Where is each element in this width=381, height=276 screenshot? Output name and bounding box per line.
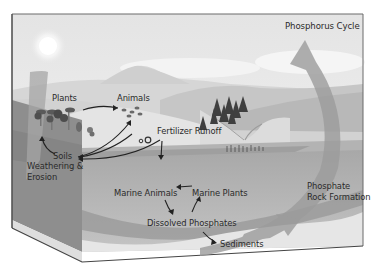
- label-rock-formation-line2: Rock Formation: [307, 192, 371, 202]
- label-weathering-line1: Weathering &: [27, 161, 83, 171]
- sun-icon: [30, 28, 66, 64]
- label-sediments: Sediments: [220, 239, 263, 249]
- label-soils: Soils: [53, 151, 72, 161]
- label-weathering-line2: Erosion: [27, 172, 57, 182]
- label-marine-plants: Marine Plants: [192, 188, 247, 198]
- label-animals: Animals: [117, 93, 150, 103]
- diagram-title: Phosphorus Cycle: [285, 21, 360, 31]
- diagram-illustration: [0, 0, 381, 276]
- label-rock-formation-line1: Phosphate: [307, 181, 350, 191]
- label-fertilizer-runoff: Fertilizer Runoff: [157, 126, 221, 136]
- label-plants: Plants: [52, 93, 77, 103]
- label-dissolved-phosphates: Dissolved Phosphates: [147, 218, 236, 228]
- label-marine-animals: Marine Animals: [114, 188, 177, 198]
- phosphorus-cycle-diagram: Phosphorus Cycle Plants Animals Fertiliz…: [0, 0, 381, 276]
